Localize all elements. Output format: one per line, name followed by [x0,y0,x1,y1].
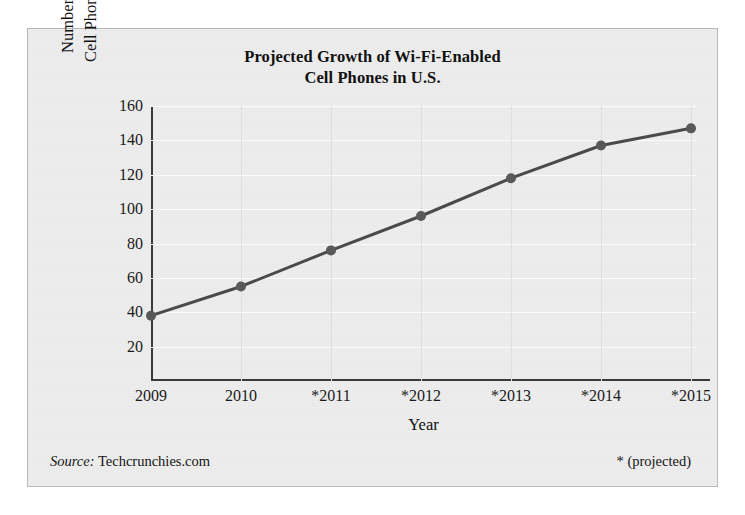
y-tick-label: 60 [127,269,143,287]
x-tick-label: *2012 [401,387,441,405]
y-axis-title: Number of W-iFi-Enabled Cell Phones in U… [56,0,102,99]
data-point-marker [686,123,696,133]
data-point-marker [506,173,516,183]
chart-title-line-1: Projected Growth of Wi-Fi-Enabled [244,47,500,66]
data-point-marker [596,141,606,151]
y-tick-label: 120 [119,166,143,184]
y-axis-title-line-2: Cell Phones in U.S. (in millions) [79,0,102,99]
data-point-marker [146,311,156,321]
series-line [151,128,691,315]
x-tick-label: 2009 [135,387,167,405]
projected-footnote: * (projected) [617,453,691,470]
data-series [151,106,696,381]
y-tick-label: 40 [127,303,143,321]
source-label: Source: [50,453,95,469]
y-axis-title-line-1: Number of W-iFi-Enabled [56,0,79,111]
x-tick-label: *2015 [671,387,711,405]
plot-area: 20406080100120140160 20092010*2011*2012*… [151,106,696,381]
x-tick-label: 2010 [225,387,257,405]
x-axis-title: Year [151,415,696,435]
chart-title: Projected Growth of Wi-Fi-Enabled Cell P… [28,46,717,88]
x-tick-label: *2011 [311,387,350,405]
data-point-marker [416,211,426,221]
chart-figure: Projected Growth of Wi-Fi-Enabled Cell P… [27,28,718,487]
data-point-marker [236,281,246,291]
chart-title-line-2: Cell Phones in U.S. [304,68,440,87]
source-note: Source: Techcrunchies.com [50,453,210,470]
source-value: Techcrunchies.com [98,453,210,469]
y-tick-label: 20 [127,338,143,356]
y-tick-label: 160 [119,97,143,115]
y-tick-label: 100 [119,200,143,218]
data-point-marker [326,245,336,255]
x-tick-label: *2013 [491,387,531,405]
x-tick-label: *2014 [581,387,621,405]
y-tick-label: 140 [119,131,143,149]
y-tick-label: 80 [127,235,143,253]
